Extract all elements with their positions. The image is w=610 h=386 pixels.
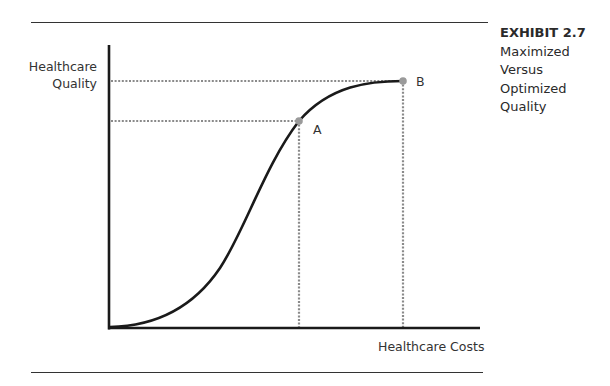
point-a-label: A: [313, 122, 322, 137]
point-b-label: B: [416, 74, 425, 89]
chart-plot: [0, 0, 610, 386]
point-b-marker: [399, 77, 407, 85]
quality-cost-curve: [110, 81, 403, 327]
point-a-marker: [295, 117, 303, 125]
